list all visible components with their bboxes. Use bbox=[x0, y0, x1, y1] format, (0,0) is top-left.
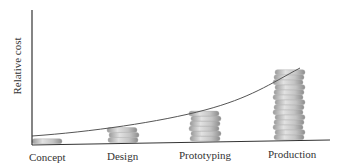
chart-canvas bbox=[0, 0, 348, 167]
coin bbox=[275, 100, 305, 105]
coin bbox=[108, 137, 138, 142]
coin-stack-prototyping bbox=[189, 111, 221, 141]
coin bbox=[274, 135, 304, 140]
coin-stack-concept bbox=[32, 139, 62, 144]
coin bbox=[189, 126, 219, 131]
coin bbox=[107, 127, 137, 132]
coin bbox=[190, 121, 220, 126]
coin bbox=[275, 85, 305, 90]
x-tick-production: Production bbox=[268, 148, 316, 160]
coin bbox=[275, 130, 305, 135]
coin bbox=[273, 110, 303, 115]
coin bbox=[191, 131, 221, 136]
coin bbox=[274, 105, 304, 110]
coin bbox=[273, 95, 303, 100]
coin bbox=[109, 132, 139, 137]
y-axis-label: Relative cost bbox=[11, 31, 23, 101]
coin bbox=[274, 90, 304, 95]
coin bbox=[191, 116, 221, 121]
coin bbox=[273, 125, 303, 130]
x-tick-prototyping: Prototyping bbox=[179, 149, 231, 161]
coin bbox=[275, 115, 305, 120]
coin bbox=[274, 120, 304, 125]
coin bbox=[274, 75, 304, 80]
x-tick-concept: Concept bbox=[29, 151, 66, 163]
coin bbox=[190, 136, 220, 141]
coin-stack-design bbox=[107, 127, 139, 142]
coin bbox=[32, 139, 62, 144]
x-axis bbox=[32, 140, 330, 145]
x-tick-design: Design bbox=[107, 150, 138, 162]
trend-curve bbox=[32, 68, 300, 136]
coin bbox=[189, 111, 219, 116]
